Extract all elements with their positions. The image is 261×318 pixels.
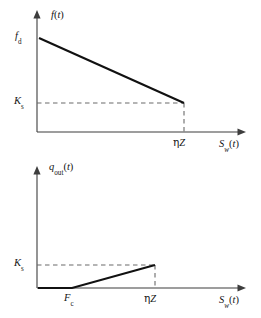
lower-x-axis-label: Sw(t) [219, 295, 239, 306]
lower-data-line [38, 265, 155, 288]
upper-ytick-ks: Ks [14, 96, 24, 107]
upper-y-axis-label: f(t) [51, 10, 64, 21]
lower-xtick-fc: Fc [64, 293, 74, 304]
upper-x-axis-label: Sw(t) [219, 139, 239, 150]
lower-x-axis-arrow [238, 284, 247, 291]
upper-data-line [39, 38, 184, 103]
lower-xtick-etaz: ηZ [144, 293, 156, 305]
fraction-curve-panel: f(t) fd Ks ηZ Sw(t) [0, 0, 261, 160]
lower-ytick-ks: Ks [14, 258, 24, 269]
lower-y-axis-arrow [33, 166, 40, 175]
upper-ytick-fd: fd [15, 31, 22, 42]
upper-xtick-etaz: ηZ [173, 137, 185, 149]
outflow-curve-panel: qout(t) Ks Fc ηZ Sw(t) [0, 158, 261, 318]
lower-y-axis-label: qout(t) [49, 162, 73, 173]
upper-chart-svg [0, 0, 261, 160]
upper-x-axis-arrow [238, 128, 247, 135]
figure-container: f(t) fd Ks ηZ Sw(t) [0, 0, 261, 318]
upper-y-axis-arrow [33, 10, 40, 19]
